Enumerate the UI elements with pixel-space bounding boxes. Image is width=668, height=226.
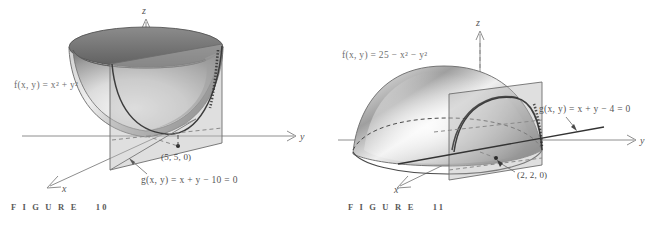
x-axis-label: x: [61, 183, 67, 194]
y-axis-label: y: [639, 135, 645, 146]
point-label-5-5-0: (5, 5, 0): [161, 152, 191, 162]
surface-equation-label: f(x, y) = 25 − x² − y²: [342, 50, 427, 61]
constraint-equation-label: g(x, y) = x + y − 4 = 0: [539, 104, 631, 115]
figure-10-panel: y x z: [0, 0, 334, 226]
figure-11-panel: y x z: [334, 0, 668, 226]
y-axis-label: y: [299, 131, 305, 142]
constraint-equation-label: g(x, y) = x + y − 10 = 0: [141, 175, 238, 186]
x-axis-label: x: [393, 184, 399, 195]
z-axis-label: z: [475, 17, 480, 28]
figure-10-diagram: y x z: [0, 0, 334, 226]
constraint-equation-group: g(x, y) = x + y − 10 = 0: [129, 158, 238, 186]
constraint-equation-group: g(x, y) = x + y − 4 = 0: [539, 104, 631, 131]
z-axis-label: z: [141, 5, 146, 16]
figure-11-diagram: y x z: [334, 0, 668, 226]
surface-equation-label: f(x, y) = x² + y²: [14, 80, 78, 91]
point-label-2-2-0: (2, 2, 0): [517, 170, 547, 180]
figure-10-caption: F I G U R E 10: [11, 202, 109, 212]
constraint-plane: [449, 82, 542, 180]
figure-11-caption: F I G U R E 11: [348, 202, 445, 212]
